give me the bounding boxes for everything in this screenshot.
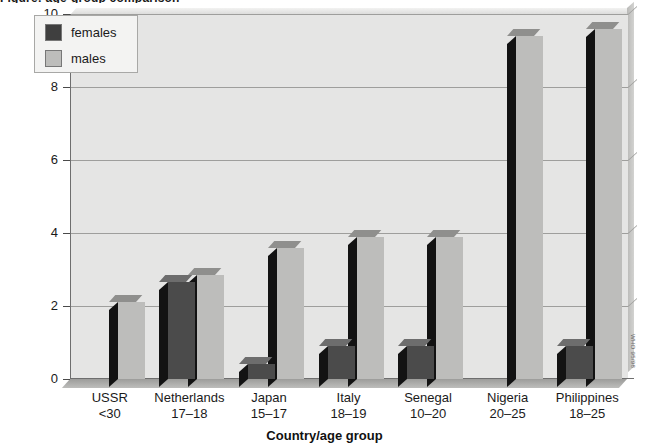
- y-tick-label-2: 2: [20, 298, 58, 313]
- legend-swatch-females-icon: [45, 24, 62, 41]
- bar-females-senegal[interactable]: [407, 346, 434, 379]
- bar-males-italy[interactable]: [357, 237, 384, 379]
- bar-females-netherlands[interactable]: [168, 282, 195, 379]
- bar-top-face: [109, 295, 142, 302]
- bar-top-face: [348, 230, 381, 237]
- legend-label-males: males: [71, 51, 106, 66]
- y-tick-mark-4: [63, 233, 70, 234]
- y-tick-mark-6: [63, 160, 70, 161]
- y-tick-label-4: 4: [20, 225, 58, 240]
- x-axis-title: Country/age group: [0, 428, 649, 443]
- y-tick-label-0: 0: [20, 371, 58, 386]
- y-tick-mark-2: [63, 306, 70, 307]
- chart-3d-right-face: [627, 2, 634, 373]
- y-tick-label-8: 8: [20, 79, 58, 94]
- gridline: [71, 160, 628, 161]
- bar-top-face: [268, 241, 301, 248]
- bar-side-face: [109, 302, 118, 387]
- bar-chart: 0246810 females males USSR<30Netherlands…: [0, 0, 649, 448]
- bar-front-face: [118, 302, 145, 379]
- legend: females males: [34, 15, 138, 73]
- bar-side-face: [159, 282, 168, 387]
- category-country: Philippines: [556, 390, 619, 405]
- bar-males-senegal[interactable]: [436, 237, 463, 379]
- bar-front-face: [277, 248, 304, 379]
- bar-front-face: [197, 275, 224, 379]
- category-label-philippines: Philippines18–25: [533, 390, 641, 422]
- y-tick-label-6: 6: [20, 152, 58, 167]
- category-country: Japan: [251, 390, 286, 405]
- bar-side-face: [507, 36, 516, 387]
- bar-top-face: [507, 29, 540, 36]
- bar-front-face: [168, 282, 195, 379]
- gridline: [71, 14, 628, 15]
- bar-males-philippines[interactable]: [595, 29, 622, 379]
- legend-item-females: females: [45, 24, 137, 41]
- category-country: USSR: [92, 390, 128, 405]
- category-country: Italy: [337, 390, 361, 405]
- category-country: Senegal: [404, 390, 452, 405]
- bar-front-face: [407, 346, 434, 379]
- bar-males-ussr[interactable]: [118, 302, 145, 379]
- category-age-range: 18–25: [533, 406, 641, 422]
- chart-3d-floor: [62, 379, 627, 388]
- bar-top-face: [188, 268, 221, 275]
- bar-males-nigeria[interactable]: [516, 36, 543, 379]
- bar-front-face: [436, 237, 463, 379]
- category-country: Nigeria: [487, 390, 528, 405]
- y-tick-mark-8: [63, 87, 70, 88]
- legend-item-males: males: [45, 50, 137, 67]
- source-credit: WHO 95/98: [630, 334, 636, 368]
- bar-males-netherlands[interactable]: [197, 275, 224, 379]
- legend-swatch-males-icon: [45, 50, 62, 67]
- gridline: [71, 87, 628, 88]
- bar-top-face: [586, 22, 619, 29]
- bar-front-face: [248, 364, 275, 379]
- bar-top-face: [159, 275, 192, 282]
- y-tick-mark-0: [63, 379, 70, 380]
- bar-front-face: [328, 346, 355, 379]
- bar-females-japan[interactable]: [248, 364, 275, 379]
- bar-top-face: [427, 230, 460, 237]
- legend-label-females: females: [71, 25, 117, 40]
- bar-front-face: [595, 29, 622, 379]
- bar-top-face: [319, 339, 352, 346]
- bar-front-face: [516, 36, 543, 379]
- bar-females-philippines[interactable]: [566, 346, 593, 379]
- plot-area: [70, 14, 628, 379]
- category-country: Netherlands: [154, 390, 224, 405]
- bar-females-italy[interactable]: [328, 346, 355, 379]
- bar-front-face: [566, 346, 593, 379]
- bar-side-face: [586, 29, 595, 387]
- bar-males-japan[interactable]: [277, 248, 304, 379]
- bar-front-face: [357, 237, 384, 379]
